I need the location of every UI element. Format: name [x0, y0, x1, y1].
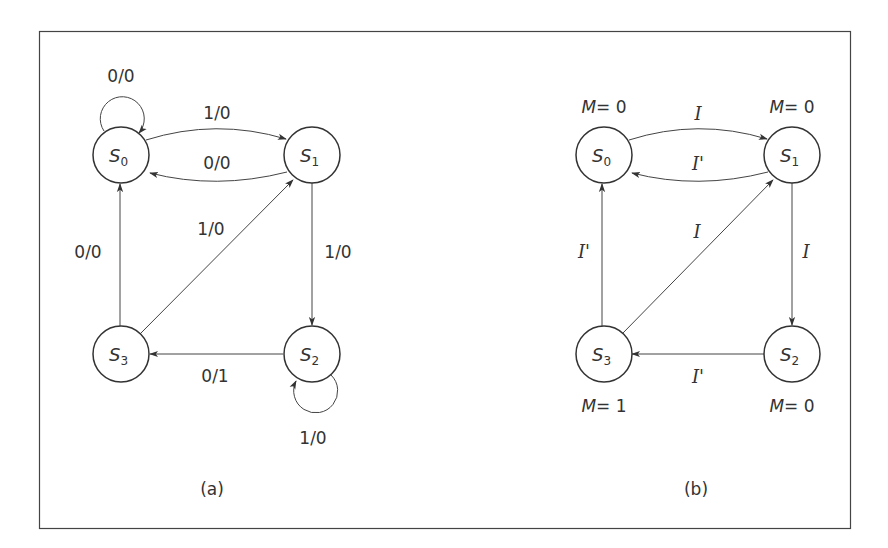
- edge-s1-to-s0: [150, 172, 287, 181]
- state-s2: S2: [284, 326, 340, 382]
- caption-a: (a): [200, 479, 224, 499]
- state-s3: S3: [93, 326, 149, 382]
- state-s1: S1: [284, 127, 340, 183]
- state-s3: S3: [576, 326, 632, 382]
- output-label-s2: M= 0: [769, 396, 814, 416]
- edge-label-s1-s0: I': [691, 153, 704, 174]
- edge-label-s0-self: 0/0: [107, 66, 134, 86]
- edge-label-s1-s2: 1/0: [324, 242, 351, 262]
- panel-a-mealy-diagram: S0 S1 S2 S3 0/0 1/0 0/0 1/0 1/0 0/1 0/0 …: [74, 66, 351, 499]
- caption-b: (b): [684, 479, 708, 499]
- state-s1: S1: [764, 127, 820, 183]
- state-s2: S2: [764, 326, 820, 382]
- edge-s3-to-s1: [622, 180, 773, 334]
- edge-label-s3-s0: 0/0: [74, 242, 101, 262]
- output-label-s3: M= 1: [581, 396, 626, 416]
- state-s0: S0: [93, 127, 149, 183]
- edge-label-s1-s2: I: [801, 241, 810, 262]
- edge-label-s3-s1: 1/0: [197, 219, 224, 239]
- edge-label-s3-s0: I': [577, 241, 590, 262]
- edge-label-s2-s3: 0/1: [201, 366, 228, 386]
- edge-label-s3-s1: I: [692, 221, 701, 242]
- edge-label-s2-self: 1/0: [299, 428, 326, 448]
- edge-label-s1-s0: 0/0: [203, 153, 230, 173]
- edge-label-s0-s1: 1/0: [203, 103, 230, 123]
- figure-frame: [40, 32, 851, 529]
- edge-s3-to-s1: [140, 180, 293, 334]
- edge-s0-to-s1: [629, 129, 767, 140]
- edge-s0-to-s1: [146, 129, 286, 140]
- edge-label-s0-s1: I: [693, 103, 702, 124]
- output-label-s1: M= 0: [769, 97, 814, 117]
- output-label-s0: M= 0: [581, 97, 626, 117]
- edge-label-s2-s3: I': [691, 366, 704, 387]
- state-s0: S0: [576, 127, 632, 183]
- panel-b-moore-diagram: S0 S1 S2 S3 M= 0 M= 0 M= 0 M= 1 I I' I I…: [576, 97, 820, 499]
- state-diagram-figure: S0 S1 S2 S3 0/0 1/0 0/0 1/0 1/0 0/1 0/0 …: [0, 0, 888, 548]
